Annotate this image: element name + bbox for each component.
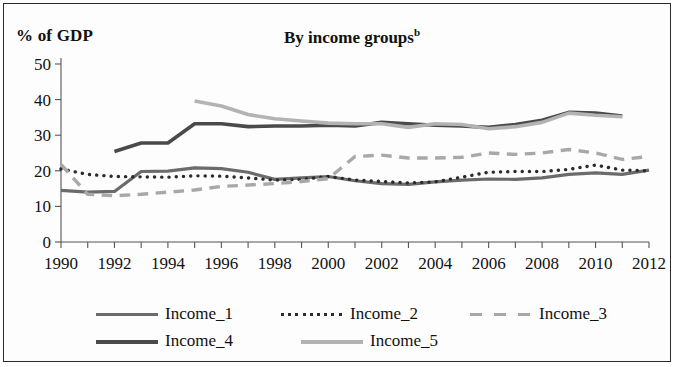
- x-tick-label: 2002: [365, 254, 399, 273]
- legend-row-2: Income_4 Income_5: [22, 327, 670, 354]
- series-line-income-4: [114, 112, 622, 151]
- legend-swatch-income-2: [281, 313, 343, 316]
- x-tick-label: 1990: [44, 254, 78, 273]
- plot-area: 0102030405019901992199419961998200020022…: [4, 50, 670, 290]
- legend-label-income-4: Income_4: [165, 331, 233, 351]
- x-tick-label: 2000: [311, 254, 345, 273]
- legend-row-1: Income_1 Income_2 Income_3: [22, 300, 670, 327]
- legend-swatch-income-3: [470, 313, 532, 316]
- legend-item-income-5[interactable]: Income_5: [301, 331, 438, 351]
- y-tick-label: 20: [34, 162, 51, 181]
- y-tick-label: 10: [34, 197, 51, 216]
- chart-title-footnote: b: [414, 26, 420, 38]
- legend-item-income-1[interactable]: Income_1: [96, 304, 233, 324]
- legend-label-income-3: Income_3: [539, 304, 607, 324]
- legend-swatch-income-1: [96, 313, 158, 316]
- legend-label-income-5: Income_5: [370, 331, 438, 351]
- chart-title: By income groupsb: [4, 26, 670, 48]
- legend-label-income-1: Income_1: [165, 304, 233, 324]
- x-tick-label: 2004: [418, 254, 453, 273]
- x-tick-label: 1996: [204, 254, 238, 273]
- y-tick-label: 30: [34, 126, 51, 145]
- x-tick-label: 1998: [258, 254, 292, 273]
- legend-swatch-income-5: [301, 340, 363, 344]
- x-tick-label: 1994: [151, 254, 186, 273]
- legend-label-income-2: Income_2: [350, 304, 418, 324]
- line-chart: 0102030405019901992199419961998200020022…: [4, 50, 670, 290]
- legend-item-income-3[interactable]: Income_3: [470, 304, 607, 324]
- chart-legend: Income_1 Income_2 Income_3 Income_4 Inco…: [4, 300, 670, 354]
- y-tick-label: 0: [43, 233, 52, 252]
- x-tick-label: 2006: [472, 254, 506, 273]
- legend-item-income-2[interactable]: Income_2: [281, 304, 418, 324]
- legend-item-income-4[interactable]: Income_4: [96, 331, 233, 351]
- y-tick-label: 40: [34, 91, 51, 110]
- legend-swatch-income-4: [96, 340, 158, 344]
- x-tick-label: 1992: [97, 254, 131, 273]
- x-tick-label: 2012: [632, 254, 666, 273]
- chart-title-text: By income groups: [284, 28, 414, 47]
- x-tick-label: 2008: [525, 254, 559, 273]
- y-tick-label: 50: [34, 55, 51, 74]
- figure-panel: % of GDP By income groupsb 0102030405019…: [3, 3, 671, 362]
- x-tick-label: 2010: [579, 254, 613, 273]
